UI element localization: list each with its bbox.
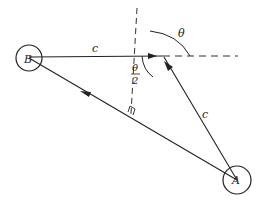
label-theta: θ <box>178 27 185 40</box>
label-B: B <box>23 53 32 66</box>
arrow-B-P <box>148 53 157 59</box>
label-c-top: c <box>92 42 98 55</box>
label-c-right: c <box>202 108 208 121</box>
label-A: A <box>231 174 240 187</box>
dashed-perpendicular-line <box>131 8 137 114</box>
diagram-canvas: B A c c θ θ 2 <box>0 0 262 201</box>
edge-A-P <box>164 57 237 180</box>
label-half-theta-den: 2 <box>131 75 138 86</box>
half-theta-arc <box>142 56 153 77</box>
geometry-diagram: B A c c θ θ 2 <box>0 0 262 201</box>
label-half-theta-num: θ <box>132 62 138 73</box>
arrow-A-B <box>80 91 91 97</box>
edge-B-P <box>29 56 163 57</box>
